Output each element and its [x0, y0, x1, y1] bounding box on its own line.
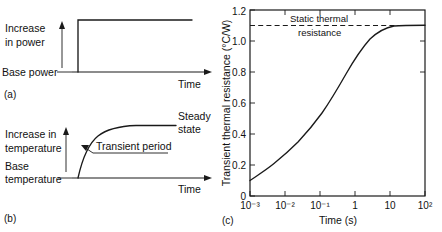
chart-ytick-2: 0.4	[232, 129, 246, 140]
panel-a-time-label: Time	[178, 78, 201, 90]
panel-b-time-axis-arrowhead	[204, 175, 212, 181]
chart-ytick-3: 0.6	[232, 98, 246, 109]
panel-a-power-step: Increase in power Base power Time (a)	[0, 0, 221, 100]
panel-a-time-axis-arrowhead	[204, 69, 212, 75]
panel-a-increase-arrowhead	[59, 21, 65, 29]
chart-xtick-5: 10²	[418, 200, 433, 211]
panel-a-increase-label-line2: in power	[5, 36, 45, 48]
chart-x-ticks-bottom	[250, 191, 425, 196]
chart-xtick-4: 10	[384, 200, 396, 211]
panel-b-transient-label: Transient period	[96, 140, 172, 152]
panel-b-time-label: Time	[178, 183, 201, 195]
panel-a-id: (a)	[4, 89, 16, 100]
panel-b-base-label-line1: Base	[5, 160, 29, 172]
panel-b-increase-label-line2: temperature	[5, 142, 62, 154]
panel-a-base-power-label: Base power	[2, 66, 58, 78]
chart-xtick-3: 1	[352, 200, 358, 211]
panel-a-increase-label-line1: Increase	[5, 22, 45, 34]
chart-graphic: 0 0.2 0.4 0.6 0.8 1.0 1.2	[218, 0, 442, 232]
chart-ytick-1: 0.2	[232, 160, 246, 171]
chart-xtick-0: 10⁻³	[240, 200, 260, 211]
panel-b-increase-label-line1: Increase in	[5, 128, 57, 140]
panel-a-step-curve	[78, 20, 192, 72]
panel-b-graphic: Increase in temperature Base temperature…	[0, 100, 221, 232]
chart-annotation-line2: resistance	[298, 27, 341, 38]
panel-b-id: (b)	[4, 213, 16, 224]
panel-b-steady-label-line2: state	[178, 123, 201, 135]
figure-three-panel: Increase in power Base power Time (a)	[0, 0, 442, 232]
chart-xtick-1: 10⁻²	[275, 200, 295, 211]
chart-annotation-line1: Static thermal	[290, 13, 348, 24]
chart-x-axis-title: Time (s)	[319, 214, 357, 226]
chart-data-curve	[250, 25, 425, 180]
chart-y-axis-title: Transient thermal resistance (°C/W)	[220, 20, 232, 187]
chart-ytick-4: 0.8	[232, 67, 246, 78]
panel-c-id: (c)	[222, 215, 234, 226]
chart-y-ticks-right	[420, 41, 425, 72]
panel-c-transient-thermal-resistance-chart: 0 0.2 0.4 0.6 0.8 1.0 1.2	[218, 0, 442, 232]
chart-ytick-5: 1.0	[232, 36, 246, 47]
panel-b-base-label-line2: temperature	[5, 173, 62, 185]
chart-xtick-2: 10⁻¹	[310, 200, 330, 211]
panel-b-temperature-response: Increase in temperature Base temperature…	[0, 100, 221, 232]
panel-b-increase-arrowhead	[63, 127, 69, 135]
panel-a-graphic: Increase in power Base power Time (a)	[0, 0, 221, 100]
chart-ytick-6: 1.2	[232, 6, 246, 17]
chart-y-ticks	[250, 10, 255, 196]
panel-b-steady-label-line1: Steady	[178, 110, 211, 122]
